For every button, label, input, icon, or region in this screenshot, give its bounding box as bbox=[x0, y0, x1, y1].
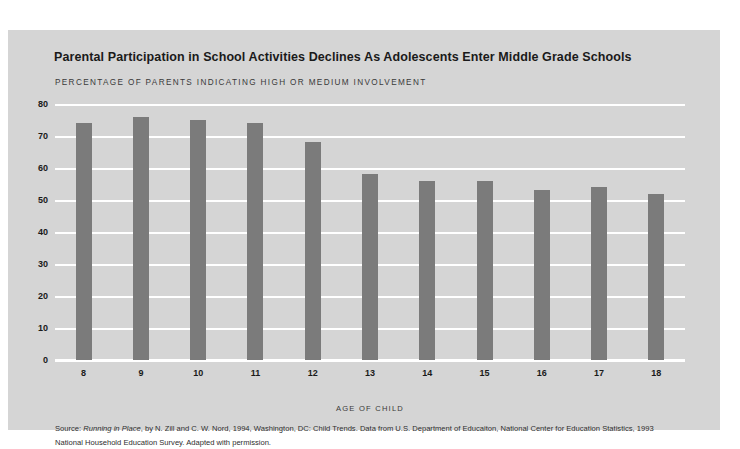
y-tick-label: 20 bbox=[38, 291, 48, 301]
x-tick-label: 11 bbox=[251, 368, 261, 378]
bar bbox=[190, 120, 206, 360]
bar bbox=[247, 123, 263, 360]
y-tick-label: 50 bbox=[38, 195, 48, 205]
bar bbox=[648, 194, 664, 360]
y-tick-label: 30 bbox=[38, 259, 48, 269]
gridline bbox=[55, 136, 685, 138]
bar bbox=[76, 123, 92, 360]
source-note: Source: Running in Place, by N. Zill and… bbox=[55, 422, 680, 449]
x-tick-label: 18 bbox=[651, 368, 661, 378]
source-prefix: Source: bbox=[55, 424, 83, 433]
x-tick-label: 10 bbox=[193, 368, 203, 378]
source-title: Running in Place bbox=[83, 424, 140, 433]
gridline bbox=[55, 168, 685, 170]
figure-panel: Parental Participation in School Activit… bbox=[8, 30, 720, 430]
y-tick-label: 40 bbox=[38, 227, 48, 237]
source-rest: , by N. Zill and C. W. Nord, 1994, Washi… bbox=[55, 424, 654, 447]
y-tick-label: 80 bbox=[38, 99, 48, 109]
bar bbox=[477, 181, 493, 360]
x-tick-label: 17 bbox=[594, 368, 604, 378]
x-tick-label: 13 bbox=[365, 368, 375, 378]
bar bbox=[534, 190, 550, 360]
y-tick-label: 70 bbox=[38, 131, 48, 141]
x-tick-label: 15 bbox=[480, 368, 490, 378]
y-tick-label: 60 bbox=[38, 163, 48, 173]
x-tick-label: 12 bbox=[308, 368, 318, 378]
bar bbox=[591, 187, 607, 360]
bar bbox=[419, 181, 435, 360]
bar bbox=[362, 174, 378, 360]
chart-subtitle: PERCENTAGE OF PARENTS INDICATING HIGH OR… bbox=[55, 78, 427, 87]
bar bbox=[133, 117, 149, 360]
x-tick-label: 16 bbox=[537, 368, 547, 378]
x-tick-label: 14 bbox=[422, 368, 432, 378]
x-tick-label: 9 bbox=[138, 368, 143, 378]
gridline bbox=[55, 104, 685, 106]
y-tick-label: 0 bbox=[43, 355, 48, 365]
bar bbox=[305, 142, 321, 360]
chart-title: Parental Participation in School Activit… bbox=[54, 50, 632, 64]
y-tick-label: 10 bbox=[38, 323, 48, 333]
x-axis-label: AGE OF CHILD bbox=[55, 404, 685, 413]
plot-area: 01020304050607080 89101112131415161718 bbox=[55, 104, 685, 360]
x-tick-label: 8 bbox=[81, 368, 86, 378]
